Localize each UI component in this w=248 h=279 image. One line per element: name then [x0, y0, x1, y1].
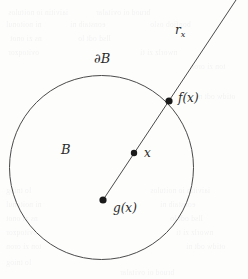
point-marker-gx: [99, 196, 106, 203]
label-point-x: x: [144, 147, 151, 159]
label-point-gx: g(x): [113, 202, 137, 214]
label-ray-subscript: x: [181, 30, 186, 39]
boundary-circle: [10, 76, 194, 260]
figure-container: iaivitin io noitulos bruod oi ovitalar n…: [0, 0, 248, 279]
diagram-svg: [0, 0, 248, 279]
label-boundary-dB: ∂B: [94, 52, 110, 65]
label-ball-B: B: [61, 143, 71, 156]
point-marker-x: [131, 150, 137, 156]
point-marker-fx: [165, 97, 172, 104]
label-point-fx: f(x): [178, 92, 199, 104]
label-ray-rx: rx: [175, 24, 185, 39]
